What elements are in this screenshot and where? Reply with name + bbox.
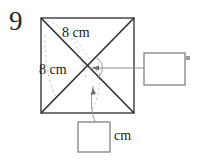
- worksheet-problem: 9 8 cm 8 cm cm: [0, 0, 198, 163]
- leader-arrow-bottom: [91, 88, 97, 95]
- answer-box-bottom[interactable]: [78, 122, 110, 152]
- box-corner-marker-icon: [186, 56, 190, 60]
- leader-arrow-center: [92, 66, 99, 71]
- unit-label-bottom: cm: [114, 129, 131, 143]
- answer-box-right[interactable]: [144, 53, 185, 85]
- problem-number: 9: [9, 8, 23, 35]
- geometry-figure: [0, 0, 198, 163]
- label-diagonal-left: 8 cm: [39, 63, 67, 77]
- label-diagonal-top: 8 cm: [62, 26, 90, 40]
